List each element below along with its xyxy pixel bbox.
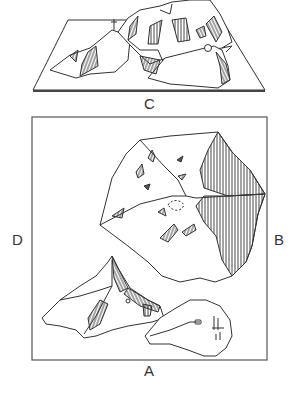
net-lower-left-fragment [42,256,164,338]
label-b: B [274,232,284,247]
label-c: C [144,96,155,111]
label-a: A [144,363,154,378]
label-d: D [12,232,23,247]
diagram-figure: C D B A [0,0,302,396]
cropped-caption [58,389,248,396]
relief-model-c [33,0,265,91]
net-upper-fragment [100,132,265,282]
relief-illustration [0,0,302,396]
